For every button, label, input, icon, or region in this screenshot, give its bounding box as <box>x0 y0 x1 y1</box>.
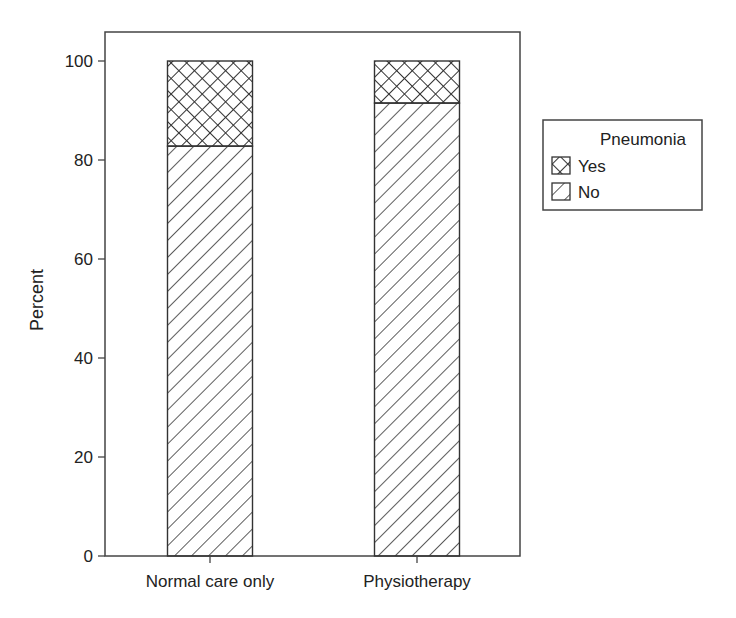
legend: Pneumonia Yes No <box>543 120 702 210</box>
legend-label-no: No <box>578 183 600 202</box>
stacked-bar-chart: 020406080100 Normal care onlyPhysiothera… <box>0 0 736 618</box>
bar-segment-yes <box>375 61 460 103</box>
x-axis: Normal care onlyPhysiotherapy <box>146 556 472 591</box>
y-tick-label: 100 <box>65 52 93 71</box>
bar-segment-yes <box>168 61 253 146</box>
bar-normal-care-only <box>168 61 253 556</box>
legend-title: Pneumonia <box>600 130 687 149</box>
legend-swatch-yes <box>552 157 570 174</box>
y-tick-label: 80 <box>74 151 93 170</box>
x-category-label: Physiotherapy <box>363 572 471 591</box>
y-axis: 020406080100 <box>65 52 105 566</box>
y-tick-label: 0 <box>84 547 93 566</box>
y-tick-label: 60 <box>74 250 93 269</box>
legend-label-yes: Yes <box>578 157 606 176</box>
bars <box>168 61 460 556</box>
bar-segment-no <box>168 146 253 556</box>
legend-swatch-no <box>552 183 570 200</box>
x-category-label: Normal care only <box>146 572 275 591</box>
bar-physiotherapy <box>375 61 460 556</box>
bar-segment-no <box>375 103 460 556</box>
y-tick-label: 40 <box>74 349 93 368</box>
y-tick-label: 20 <box>74 448 93 467</box>
y-axis-title: Percent <box>27 269 47 331</box>
